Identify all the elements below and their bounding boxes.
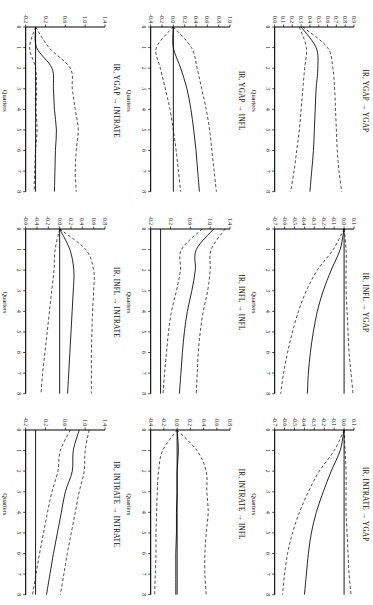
x-tick-label: 7	[16, 371, 22, 374]
y-tick-label: 0.2	[43, 419, 49, 426]
y-tick-label: -0.3	[311, 216, 317, 225]
x-tick-label: 1	[265, 450, 271, 453]
plot-area: 1.41.00.60.2-0.2012345678	[0, 403, 124, 605]
x-tick-label: 5	[140, 330, 146, 333]
x-tick-label: 6	[265, 552, 271, 555]
plot-area: 1.41.00.60.2-0.2012345678	[0, 0, 124, 202]
series-upper_band	[36, 27, 79, 192]
y-tick-label: -0.4	[301, 417, 307, 426]
y-tick-label: 0.3	[298, 16, 304, 23]
x-tick-label: 1	[16, 248, 22, 251]
x-tick-label: 0	[140, 26, 146, 29]
y-tick-label: -0.4	[34, 216, 40, 225]
x-tick-label: 3	[16, 289, 22, 292]
y-tick-label: 1.0	[83, 419, 89, 426]
x-tick-label: 7	[16, 170, 22, 173]
x-tick-label: 6	[265, 351, 271, 354]
y-tick-label: -0.4	[301, 216, 307, 225]
y-tick-label: -0.6	[23, 216, 29, 225]
series-upper_band	[344, 229, 353, 394]
x-tick-label: 2	[265, 268, 271, 271]
x-tick-label: 5	[265, 129, 271, 132]
x-tick-label: 8	[16, 392, 22, 395]
plot-area: 0.10.0-0.1-0.2-0.3-0.4-0.5-0.6-0.7012345…	[249, 403, 373, 605]
y-tick-label: -0.2	[161, 417, 167, 426]
y-tick-label: 1.0	[83, 16, 89, 23]
x-tick-label: 0	[140, 429, 146, 432]
x-tick-label: 4	[16, 511, 22, 514]
x-tick-label: 3	[265, 491, 271, 494]
x-tick-label: 8	[16, 594, 22, 597]
series-lower_band	[281, 229, 344, 394]
panel-ygap-to-intrate: IR, YGAP → INTRATEQuarters1.41.00.60.2-0…	[0, 0, 124, 202]
x-tick-label: 0	[265, 26, 271, 29]
y-tick-label: 0.6	[204, 16, 210, 23]
y-tick-label: -0.6	[282, 417, 288, 426]
y-tick-label: -0.1	[331, 216, 337, 225]
x-tick-label: 4	[16, 108, 22, 111]
y-tick-label: 0.2	[187, 419, 193, 426]
impulse-response-figure: IR, YGAP → YGAPQuarters0.90.80.70.60.50.…	[0, 0, 373, 605]
figure-rotation-wrapper: IR, YGAP → YGAPQuarters0.90.80.70.60.50.…	[0, 0, 373, 605]
series-lower_band	[283, 430, 344, 595]
series-upper_band	[344, 430, 351, 595]
series-mean	[307, 229, 344, 394]
x-tick-label: 4	[140, 310, 146, 313]
y-tick-label: 0.8	[215, 16, 221, 23]
x-tick-label: 3	[140, 491, 146, 494]
x-tick-label: 2	[16, 470, 22, 473]
x-tick-label: 3	[16, 87, 22, 90]
x-tick-label: 8	[16, 190, 22, 193]
series-lower_band	[41, 229, 60, 394]
y-tick-label: -0.5	[292, 216, 298, 225]
x-tick-label: 3	[140, 289, 146, 292]
x-tick-label: 6	[140, 351, 146, 354]
y-tick-label: 0.4	[193, 16, 199, 23]
x-tick-label: 7	[140, 170, 146, 173]
x-tick-label: 2	[140, 470, 146, 473]
y-tick-label: 0.2	[68, 218, 74, 225]
x-tick-label: 6	[16, 149, 22, 152]
x-tick-label: 7	[16, 573, 22, 576]
panel-ygap-to-infl: IR, YGAP → INFLQuarters1.00.80.60.40.20.…	[124, 0, 248, 202]
x-tick-label: 6	[140, 552, 146, 555]
y-tick-label: 0.4	[200, 419, 206, 426]
x-tick-label: 2	[265, 67, 271, 70]
series-mean	[60, 229, 74, 394]
series-upper_band	[196, 229, 225, 394]
y-tick-label: -0.4	[147, 417, 153, 426]
y-tick-label: -0.5	[292, 417, 298, 426]
y-tick-label: -0.2	[159, 14, 165, 23]
y-tick-label: -0.2	[23, 417, 29, 426]
x-tick-label: 4	[265, 108, 271, 111]
y-tick-label: 0.6	[63, 16, 69, 23]
series-mean	[179, 229, 213, 394]
x-tick-label: 5	[140, 532, 146, 535]
x-tick-label: 0	[265, 227, 271, 230]
x-tick-label: 5	[265, 330, 271, 333]
y-tick-label: 0.0	[170, 16, 176, 23]
y-tick-label: 0.0	[341, 419, 347, 426]
y-tick-label: 0.0	[272, 16, 278, 23]
x-tick-label: 2	[140, 268, 146, 271]
y-tick-label: 0.9	[351, 16, 357, 23]
y-tick-label: 0.5	[316, 16, 322, 23]
y-tick-label: -0.6	[282, 216, 288, 225]
y-tick-label: 1.4	[227, 218, 233, 225]
y-tick-label: 0.1	[351, 218, 357, 225]
y-tick-label: 0.4	[307, 16, 313, 23]
x-tick-label: 4	[265, 310, 271, 313]
y-tick-label: 0.1	[351, 419, 357, 426]
plot-area: 0.10.0-0.1-0.2-0.3-0.4-0.5-0.6-0.7012345…	[249, 202, 373, 404]
x-tick-label: 1	[265, 46, 271, 49]
x-tick-label: 7	[265, 573, 271, 576]
y-tick-label: -0.7	[272, 417, 278, 426]
x-tick-label: 2	[265, 470, 271, 473]
y-tick-label: -0.2	[46, 216, 52, 225]
x-tick-label: 3	[16, 491, 22, 494]
panel-ygap-to-ygap: IR, YGAP → YGAPQuarters0.90.80.70.60.50.…	[249, 0, 373, 202]
y-tick-label: 0.2	[167, 218, 173, 225]
series-lower_band	[154, 430, 176, 595]
series-mean	[35, 27, 56, 192]
y-tick-label: 0.6	[63, 419, 69, 426]
